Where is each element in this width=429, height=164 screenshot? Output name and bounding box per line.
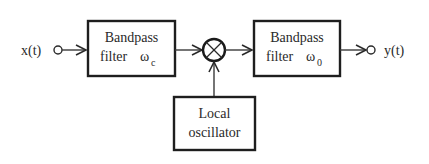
bpf1-subscript: c xyxy=(151,57,156,68)
bandpass-filter-w0-block: Bandpass filter ω 0 xyxy=(254,21,340,76)
bpf2-line1: Bandpass xyxy=(270,30,324,45)
bpf2-line2: filter xyxy=(266,49,294,64)
bandpass-filter-wc-block: Bandpass filter ω c xyxy=(88,21,175,76)
lo-line1: Local xyxy=(199,106,231,121)
bpf1-line1: Bandpass xyxy=(105,30,159,45)
output-port-icon xyxy=(367,46,375,54)
bpf2-omega: ω xyxy=(306,49,315,64)
block-diagram: x(t) Bandpass filter ω c Band xyxy=(0,0,429,164)
lo-line2: oscillator xyxy=(188,125,240,140)
local-oscillator-block: Local oscillator xyxy=(174,97,255,150)
bpf1-line2: filter xyxy=(100,49,128,64)
output-label: y(t) xyxy=(384,43,405,59)
mixer-multiply-icon xyxy=(203,39,225,61)
input-port-icon xyxy=(54,46,62,54)
bpf2-subscript: 0 xyxy=(317,57,322,68)
input-label: x(t) xyxy=(21,43,42,59)
bpf1-omega: ω xyxy=(140,49,149,64)
